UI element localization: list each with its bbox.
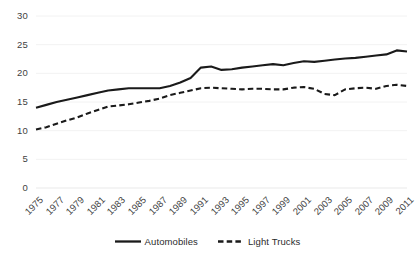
- chart-legend: AutomobilesLight Trucks: [0, 236, 415, 247]
- y-axis-tick-label: 10: [2, 125, 28, 136]
- series-line-light-trucks: [36, 85, 407, 130]
- legend-label: Automobiles: [145, 236, 198, 247]
- y-axis-tick-label: 25: [2, 39, 28, 50]
- legend-label: Light Trucks: [248, 236, 300, 247]
- y-axis-tick-label: 5: [2, 153, 28, 164]
- y-axis-tick-label: 30: [2, 10, 28, 21]
- chart-plot-area: [0, 0, 415, 260]
- legend-entry[interactable]: Automobiles: [115, 236, 198, 247]
- legend-solid-line-icon: [115, 237, 141, 246]
- gridlines: [36, 16, 407, 188]
- y-axis-tick-label: 0: [2, 182, 28, 193]
- series-lines: [36, 50, 407, 129]
- y-axis-tick-label: 20: [2, 67, 28, 78]
- legend-entry[interactable]: Light Trucks: [218, 236, 300, 247]
- y-axis-tick-label: 15: [2, 96, 28, 107]
- line-chart: 051015202530 197519771979198119831985198…: [0, 0, 415, 260]
- series-line-automobiles: [36, 50, 407, 107]
- legend-dashed-line-icon: [218, 237, 244, 246]
